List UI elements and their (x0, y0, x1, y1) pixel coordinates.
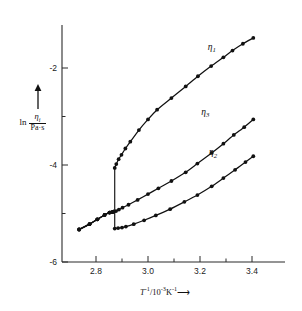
data-point (113, 227, 117, 231)
data-point (142, 218, 146, 222)
x-axis-tick-label: 2.8 (90, 266, 102, 276)
data-point (251, 118, 255, 122)
data-point (233, 168, 237, 172)
data-point (170, 96, 174, 100)
x-axis-tick-label: 3.2 (194, 266, 206, 276)
y-axis-tick-label: -4 (49, 160, 57, 170)
data-point (222, 176, 226, 180)
axis-group (62, 25, 285, 262)
data-point (120, 153, 124, 157)
series-curve-η₁ (115, 38, 254, 168)
data-point (95, 217, 99, 221)
data-point (116, 226, 120, 230)
y-axis-label-numerator: ηi (29, 112, 47, 123)
data-point (251, 36, 255, 40)
data-point (183, 200, 187, 204)
x-axis-tick-label: 3.0 (142, 266, 154, 276)
x-axis-label-middle: /10 (150, 287, 161, 297)
data-point (231, 49, 235, 53)
data-point (117, 157, 121, 161)
data-point (222, 142, 226, 146)
series-label-η₃: η3 (201, 107, 210, 118)
series-label-group: η1η3η2 (201, 42, 218, 159)
x-axis-arrow-icon: ⟶ (177, 287, 189, 297)
data-point (112, 210, 116, 214)
data-point (120, 226, 124, 230)
data-point (241, 42, 245, 46)
y-axis-tick-label: -6 (49, 257, 57, 267)
y-axis-label-denominator: Pa·s (29, 123, 47, 132)
x-axis-label: T-1/10-3K-1⟶ (140, 285, 189, 297)
data-point (196, 193, 200, 197)
data-point (117, 208, 121, 212)
data-point (170, 179, 174, 183)
y-axis-tick-label: -2 (49, 63, 57, 73)
data-point (210, 184, 214, 188)
data-point (232, 133, 236, 137)
data-point (146, 118, 150, 122)
data-point (137, 128, 141, 132)
data-point (222, 55, 226, 59)
data-point (136, 198, 140, 202)
data-point (154, 214, 158, 218)
y-axis-label: ln ηi Pa·s (6, 112, 60, 133)
data-point (88, 222, 92, 226)
data-point (132, 222, 136, 226)
data-point (168, 207, 172, 211)
data-point (242, 125, 246, 129)
series-label-η₁: η1 (208, 42, 216, 53)
data-point (121, 206, 125, 210)
data-point (251, 154, 255, 158)
data-point (77, 228, 81, 232)
data-point (123, 147, 127, 151)
tick-label-group: 2.83.03.23.4-2-4-6 (49, 63, 258, 276)
data-point (209, 64, 213, 68)
data-curves-group (79, 38, 253, 230)
data-point (146, 192, 150, 196)
data-point (184, 85, 188, 89)
data-point (184, 170, 188, 174)
series-curve-η₂ (115, 156, 254, 228)
data-point (196, 74, 200, 78)
y-axis-arrow-icon (30, 84, 46, 110)
data-point (103, 213, 107, 217)
data-point (113, 166, 117, 170)
y-axis-label-ln: ln (20, 118, 27, 127)
data-point (114, 162, 118, 166)
tick-group (62, 68, 252, 262)
data-point (155, 108, 159, 112)
data-point (196, 162, 200, 166)
x-axis-tick-label: 3.4 (246, 266, 258, 276)
data-points-group (77, 36, 255, 231)
y-axis-label-fraction: ηi Pa·s (29, 112, 47, 133)
data-point (124, 225, 128, 229)
data-point (157, 186, 161, 190)
data-point (127, 203, 131, 207)
data-point (128, 140, 132, 144)
chart-canvas: 2.83.03.23.4-2-4-6 η1η3η2 (0, 0, 302, 311)
figure-root: 2.83.03.23.4-2-4-6 η1η3η2 ln ηi Pa·s T-1… (0, 0, 302, 311)
data-point (244, 160, 248, 164)
